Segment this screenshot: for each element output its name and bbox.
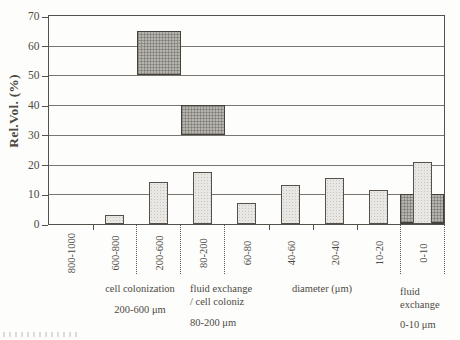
gridline — [49, 105, 444, 106]
group-divider-dotted-line — [136, 225, 137, 274]
group-size-fluid-cell: 80-200 μm — [190, 317, 236, 329]
x-tick-label-40-60: 40-60 — [285, 241, 296, 266]
plot-area — [48, 15, 445, 225]
group-label-fluid-cell-line2: / cell coloniz — [190, 296, 244, 308]
x-tick-label-800-1000: 800-1000 — [66, 233, 77, 273]
bar-60-80 — [237, 203, 256, 224]
y-axis-tick — [42, 17, 48, 18]
group-divider-dotted-line — [400, 225, 401, 274]
y-axis-tick — [42, 225, 48, 226]
y-tick-label: 70 — [14, 10, 40, 23]
bar-10-20 — [369, 190, 388, 224]
gridline — [49, 135, 444, 136]
y-tick-label: 10 — [14, 188, 40, 201]
group-label-fluid-exchange-line2: exchange — [400, 299, 440, 311]
bar-80-200 — [193, 172, 212, 224]
gridline — [49, 46, 444, 47]
x-tick-label-80-200: 80-200 — [198, 238, 209, 268]
pore-size-distribution-figure: Rel.Vol. (%) cell colonization 200-600 μ… — [0, 0, 460, 340]
x-axis-tick — [357, 225, 358, 230]
x-tick-label-10-20: 10-20 — [373, 241, 384, 266]
group-size-cell-colonization: 200-600 μm — [80, 304, 200, 316]
cropped-caption-remnant — [3, 332, 81, 337]
x-tick-label-0-10: 0-10 — [417, 243, 428, 262]
y-axis-tick — [42, 76, 48, 77]
x-tick-label-200-600: 200-600 — [154, 236, 165, 271]
y-axis-tick — [42, 165, 48, 166]
range-bar-80-200 — [181, 105, 225, 135]
group-label-fluid-cell-line1: fluid exchange — [190, 283, 252, 295]
y-tick-label: 40 — [14, 99, 40, 112]
y-tick-label: 0 — [14, 218, 40, 231]
y-tick-label: 30 — [14, 129, 40, 142]
y-tick-label: 50 — [14, 69, 40, 82]
group-divider-dotted-line — [444, 225, 445, 274]
x-axis-tick — [313, 225, 314, 230]
range-bar-200-600 — [137, 31, 181, 76]
gridline — [49, 75, 444, 76]
group-label-cell-colonization: cell colonization — [80, 283, 200, 295]
y-axis-tick — [42, 135, 48, 136]
group-divider-dotted-line — [224, 225, 225, 274]
y-axis-tick — [42, 106, 48, 107]
bar-200-600 — [149, 182, 168, 224]
x-axis-tick — [93, 225, 94, 230]
group-label-fluid-exchange-line1: fluid — [400, 286, 420, 298]
y-tick-label: 20 — [14, 159, 40, 172]
y-tick-label: 60 — [14, 40, 40, 53]
group-divider-dotted-line — [180, 225, 181, 274]
y-axis-tick — [42, 46, 48, 47]
bar-600-800 — [105, 215, 124, 224]
x-tick-label-20-40: 20-40 — [329, 241, 340, 266]
bar-20-40 — [325, 178, 344, 224]
y-axis-tick — [42, 195, 48, 196]
bar-40-60 — [281, 185, 300, 224]
x-axis-tick — [269, 225, 270, 230]
x-tick-label-600-800: 600-800 — [110, 236, 121, 271]
bar-0-10 — [413, 162, 432, 224]
group-size-fluid-exchange: 0-10 μm — [400, 319, 436, 331]
x-tick-label-60-80: 60-80 — [242, 241, 253, 266]
x-axis-unit-label: diameter (μm) — [262, 283, 382, 295]
gridline — [49, 165, 444, 166]
